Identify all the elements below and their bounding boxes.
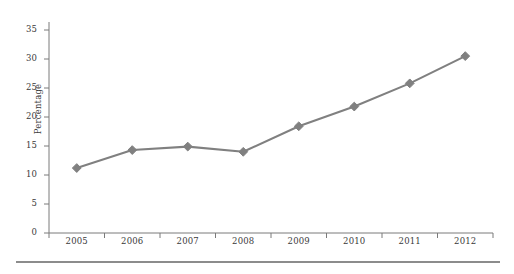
data-point-marker[interactable] <box>239 147 248 156</box>
axes <box>44 22 493 238</box>
line-chart: Percentage 05101520253035 20052006200720… <box>0 0 514 274</box>
data-point-marker[interactable] <box>461 52 470 61</box>
data-point-marker[interactable] <box>72 164 81 173</box>
data-point-marker[interactable] <box>183 142 192 151</box>
data-point-marker[interactable] <box>128 146 137 155</box>
data-point-marker[interactable] <box>294 122 303 131</box>
data-point-marker[interactable] <box>405 79 414 88</box>
bottom-divider-rule <box>16 261 500 263</box>
data-series <box>72 52 469 173</box>
data-point-marker[interactable] <box>350 102 359 111</box>
plot-area <box>0 0 514 274</box>
